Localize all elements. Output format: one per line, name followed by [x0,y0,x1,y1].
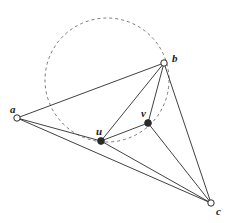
edge-a-c [17,118,211,203]
geometry-figure: abcuv [0,0,229,223]
vertex-a[interactable] [14,115,20,121]
figure-canvas [0,0,229,223]
vertex-u[interactable] [98,138,105,145]
vertex-label-b: b [172,53,178,64]
edge-b-c [164,63,211,203]
edge-a-u [17,118,101,141]
edge-b-v [148,63,164,123]
vertex-c[interactable] [208,200,214,206]
edge-u-c [101,141,211,203]
vertex-label-a: a [10,104,16,115]
edges-layer [17,63,211,203]
vertex-label-v: v [141,108,146,119]
vertex-label-u: u [96,126,102,137]
vertex-v[interactable] [145,120,152,127]
vertex-label-c: c [216,206,221,217]
vertex-b[interactable] [161,60,167,66]
edge-v-c [148,123,211,203]
